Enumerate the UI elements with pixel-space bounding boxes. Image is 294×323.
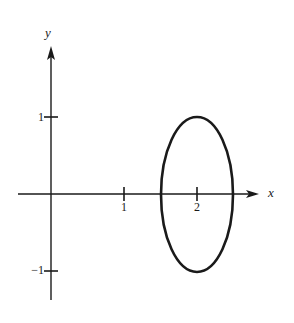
x-axis-label: x	[268, 186, 274, 199]
y-tick-label-neg-1: −1	[20, 264, 44, 276]
cartesian-plot	[0, 0, 294, 323]
y-tick-label-1: 1	[30, 111, 44, 123]
x-tick-label-1: 1	[117, 201, 131, 213]
x-tick-label-2: 2	[190, 201, 204, 213]
plot-figure: y x 1 −1 1 2	[0, 0, 294, 323]
y-axis-label: y	[45, 26, 51, 39]
